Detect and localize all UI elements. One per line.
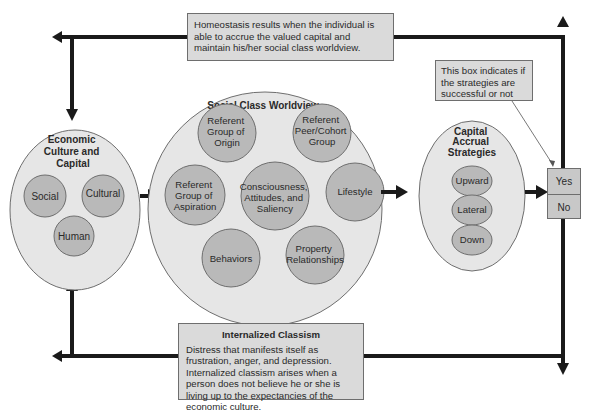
note-text: This box indicates if the strategies are… xyxy=(441,65,525,99)
strategy-down: Down xyxy=(460,234,485,245)
arrowhead-up-icon xyxy=(557,16,569,27)
arrowhead-left-icon xyxy=(52,350,62,362)
outcome-yes: Yes xyxy=(548,169,580,194)
capital-cultural: Cultural xyxy=(86,188,120,199)
economic-culture-ellipse: Economic Culture and Capital Social Cult… xyxy=(10,130,140,290)
economic-title: Economic xyxy=(48,134,96,145)
referent-group-aspiration: Referent Group of Aspiration xyxy=(174,179,217,212)
capital-accrual-strategies-ellipse: Capital Accrual Strategies Upward Latera… xyxy=(419,121,525,271)
strategy-upward: Upward xyxy=(455,175,488,186)
capital-social: Social xyxy=(31,191,58,202)
arrowhead-down-icon xyxy=(557,363,569,375)
classism-text: Distress that manifests itself as frustr… xyxy=(186,344,356,413)
homeostasis-box: Homeostasis results when the individual … xyxy=(187,13,394,61)
strategy-success-note: This box indicates if the strategies are… xyxy=(435,60,533,101)
outcome-no: No xyxy=(548,194,580,220)
outcome-box: Yes No xyxy=(547,168,581,219)
behaviors: Behaviors xyxy=(210,253,253,264)
lifestyle: Lifestyle xyxy=(337,186,372,197)
arrowhead-down-icon xyxy=(66,109,78,121)
internalized-classism-box: Internalized Classism Distress that mani… xyxy=(178,323,364,400)
classism-title: Internalized Classism xyxy=(186,329,356,341)
strategy-lateral: Lateral xyxy=(457,204,486,215)
arrowhead-left-icon xyxy=(52,31,62,43)
social-class-worldview-circle: Social Class Worldview Referent Group of… xyxy=(148,92,384,326)
capital-human: Human xyxy=(58,231,90,242)
note-pointer-line xyxy=(512,101,553,165)
homeostasis-text: Homeostasis results when the individual … xyxy=(194,19,374,53)
arrowhead-right-icon xyxy=(396,185,408,199)
svg-text:Capital Accrual St: Capital Accrual Strategies xyxy=(448,126,497,158)
